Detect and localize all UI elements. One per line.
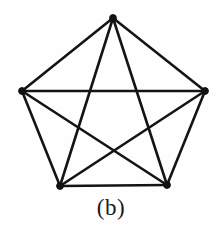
graph-edge-v4-v5 — [22, 91, 60, 186]
graph-vertex-top — [110, 15, 117, 22]
graph-vertex-bottom-left — [57, 183, 64, 190]
complete-graph-k5-drawing — [0, 0, 222, 200]
graph-edge-v1-v3 — [113, 18, 167, 185]
graph-edge-v5-v1 — [22, 18, 113, 91]
figure-container: (b) — [0, 0, 222, 226]
graph-edge-v3-v5 — [22, 91, 167, 185]
graph-edges-layer — [22, 18, 205, 186]
graph-edge-v2-v4 — [60, 91, 205, 186]
graph-vertex-right — [202, 88, 209, 95]
graph-edge-v3-v4 — [60, 185, 167, 186]
graph-vertex-left — [19, 88, 26, 95]
graph-edge-v1-v4 — [60, 18, 113, 186]
graph-vertex-bottom-right — [164, 182, 171, 189]
graph-vertices-layer — [19, 15, 209, 190]
figure-caption: (b) — [0, 194, 222, 222]
graph-edge-v1-v2 — [113, 18, 205, 91]
graph-edge-v2-v3 — [167, 91, 205, 185]
